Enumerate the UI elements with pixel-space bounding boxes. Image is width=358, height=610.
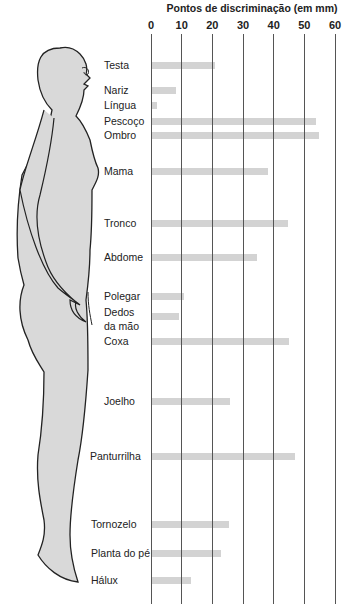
label-tronco: Tronco <box>104 217 136 229</box>
bar-halux <box>151 577 191 584</box>
bar-dedos-da-mao <box>151 313 179 320</box>
gridline-10 <box>181 34 182 604</box>
bar-nariz <box>151 87 176 94</box>
label-halux: Hálux <box>91 574 118 586</box>
tick-label: 40 <box>268 19 280 31</box>
bar-ombro <box>151 132 319 139</box>
bar-tornozelo <box>151 521 229 528</box>
bar-abdome <box>151 254 257 261</box>
bar-testa <box>151 62 215 69</box>
tick-label: 20 <box>206 19 218 31</box>
gridline-50 <box>304 34 305 604</box>
label-testa: Testa <box>104 59 129 71</box>
label-dedos: Dedos <box>104 306 134 318</box>
label-da-mao: da mão <box>104 320 139 332</box>
gridline-20 <box>212 34 213 604</box>
bar-tronco <box>151 220 288 227</box>
label-planta-do-pe: Planta do pé <box>91 547 150 559</box>
label-panturrilha: Panturrilha <box>90 450 141 462</box>
bar-planta-do-pe <box>151 550 221 557</box>
gridline-30 <box>243 34 244 604</box>
bar-polegar <box>151 293 184 300</box>
gridline-60 <box>335 34 336 604</box>
label-abdome: Abdome <box>104 251 143 263</box>
label-pescoco: Pescoço <box>104 115 144 127</box>
buttock-line <box>88 292 92 325</box>
bar-mama <box>151 168 268 175</box>
bar-coxa <box>151 338 289 345</box>
tick-label: 10 <box>176 19 188 31</box>
gridline-0 <box>151 34 152 604</box>
gridline-40 <box>273 34 274 604</box>
axis-title: Pontos de discriminação (em mm) <box>147 2 357 14</box>
label-joelho: Joelho <box>104 395 135 407</box>
bar-joelho <box>151 398 230 405</box>
label-lingua: Língua <box>104 99 136 111</box>
label-mama: Mama <box>104 165 133 177</box>
bar-pescoco <box>151 118 316 125</box>
body-outline <box>17 47 98 582</box>
tick-label: 60 <box>329 19 341 31</box>
label-coxa: Coxa <box>104 335 129 347</box>
label-tornozelo: Tornozelo <box>91 518 137 530</box>
label-polegar: Polegar <box>104 290 140 302</box>
label-nariz: Nariz <box>104 84 129 96</box>
tick-label: 0 <box>148 19 154 31</box>
tick-label: 30 <box>237 19 249 31</box>
tick-label: 50 <box>298 19 310 31</box>
label-ombro: Ombro <box>104 129 136 141</box>
